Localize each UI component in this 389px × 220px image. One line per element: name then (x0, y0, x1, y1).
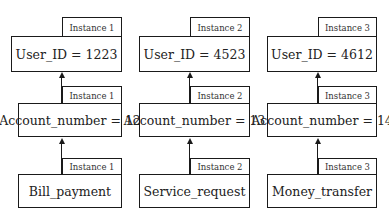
instance-tab-account-1: Instance 1 (62, 86, 122, 104)
user-id-box-1: User_ID = 1223 (11, 36, 122, 72)
account-number-box-1: Account_number = 12 (18, 103, 122, 137)
instance-tab-user-id-1: Instance 1 (62, 17, 122, 37)
instance-tab-bill-payment: Instance 1 (62, 158, 122, 175)
account-number-box-3: Account_number = 14 (267, 103, 377, 137)
arrow-head-icon (187, 138, 193, 144)
object-instance-diagram: Instance 1 User_ID = 1223 Instance 1 Acc… (0, 0, 389, 220)
arrow-head-icon (187, 72, 193, 78)
instance-tab-service-request: Instance 2 (190, 158, 250, 175)
instance-tab-user-id-2: Instance 2 (190, 17, 250, 37)
user-id-box-2: User_ID = 4523 (139, 36, 250, 72)
bill-payment-box: Bill_payment (18, 174, 122, 208)
instance-tab-money-transfer: Instance 3 (318, 158, 377, 175)
instance-tab-account-2: Instance 2 (190, 86, 250, 104)
arrow-head-icon (59, 72, 65, 78)
money-transfer-box: Money_transfer (267, 174, 377, 208)
user-id-box-3: User_ID = 4612 (267, 36, 377, 72)
arrow-head-icon (315, 72, 321, 78)
arrow-head-icon (315, 138, 321, 144)
account-number-box-2: Account_number = 13 (139, 103, 250, 137)
instance-tab-account-3: Instance 3 (318, 86, 377, 104)
instance-tab-user-id-3: Instance 3 (318, 17, 377, 37)
arrow-head-icon (59, 138, 65, 144)
service-request-box: Service_request (139, 174, 250, 208)
